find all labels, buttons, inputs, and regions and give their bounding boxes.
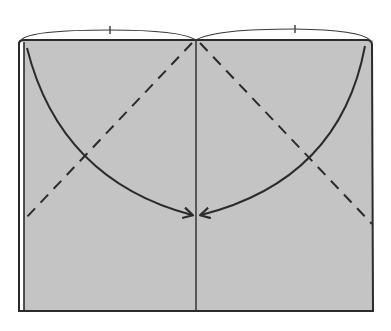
origami-diagram bbox=[0, 0, 391, 331]
measure-arc-right bbox=[196, 29, 370, 40]
measure-arcs bbox=[21, 25, 370, 40]
measure-arc-left bbox=[21, 30, 196, 40]
diagram-canvas bbox=[0, 0, 391, 331]
